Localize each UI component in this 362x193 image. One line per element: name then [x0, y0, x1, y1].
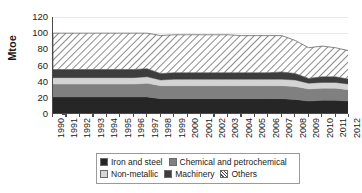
x-tick-mark: [187, 114, 188, 117]
legend-item[interactable]: Chemical and petrochemical: [169, 158, 287, 167]
legend-item[interactable]: Iron and steel: [100, 158, 163, 167]
y-tick-label: 0: [18, 109, 48, 119]
legend-swatch-icon: [169, 158, 177, 166]
x-tick-label: 2009: [312, 118, 321, 138]
x-tick-label: 2006: [272, 118, 281, 138]
x-tick-label: 2008: [299, 118, 308, 138]
x-axis-ticks: 1990199119921993199419951996199719981999…: [52, 114, 348, 154]
x-tick-label: 1992: [83, 118, 92, 138]
legend-item[interactable]: Others: [220, 170, 257, 179]
x-tick-label: 1993: [97, 118, 106, 138]
legend-item[interactable]: Machinery: [164, 170, 214, 179]
x-tick-mark: [133, 114, 134, 117]
y-tick-label: 100: [18, 28, 48, 38]
legend-label: Non-metallic: [111, 170, 158, 179]
x-tick-mark: [267, 114, 268, 117]
x-tick-label: 2001: [205, 118, 214, 138]
x-tick-mark: [294, 114, 295, 117]
y-tick-label: 20: [18, 93, 48, 103]
x-tick-mark: [227, 114, 228, 117]
x-tick-mark: [79, 114, 80, 117]
x-tick-label: 1991: [70, 118, 79, 138]
legend-label: Machinery: [175, 170, 214, 179]
x-tick-label: 2010: [326, 118, 335, 138]
y-tick-label: 80: [18, 44, 48, 54]
x-tick-mark: [321, 114, 322, 117]
legend-label: Others: [231, 170, 257, 179]
x-tick-mark: [119, 114, 120, 117]
x-tick-label: 2002: [218, 118, 227, 138]
x-tick-mark: [281, 114, 282, 117]
legend-swatch-icon: [100, 158, 108, 166]
x-tick-label: 2011: [339, 118, 348, 137]
legend-row: Non-metallicMachineryOthers: [100, 168, 296, 180]
x-tick-mark: [92, 114, 93, 117]
x-tick-label: 2012: [353, 118, 362, 138]
x-tick-label: 1997: [151, 118, 160, 138]
x-tick-label: 2005: [258, 118, 267, 138]
x-tick-mark: [146, 114, 147, 117]
y-tick-label: 120: [18, 12, 48, 22]
x-tick-mark: [213, 114, 214, 117]
legend-swatch-icon: [100, 170, 108, 178]
x-tick-label: 1994: [110, 118, 119, 138]
legend-label: Iron and steel: [111, 158, 163, 167]
x-tick-label: 2000: [191, 118, 200, 138]
x-tick-mark: [106, 114, 107, 117]
chart-legend: Iron and steelChemical and petrochemical…: [96, 153, 300, 184]
x-tick-mark: [52, 114, 53, 117]
stacked-area-series: [53, 17, 348, 114]
y-axis-ticks: 020406080100120: [14, 0, 48, 120]
legend-label: Chemical and petrochemical: [180, 158, 287, 167]
x-tick-label: 1999: [178, 118, 187, 138]
plot-area: [52, 17, 348, 114]
x-tick-mark: [173, 114, 174, 117]
x-tick-mark: [200, 114, 201, 117]
y-tick-label: 40: [18, 77, 48, 87]
x-tick-label: 1998: [164, 118, 173, 138]
legend-item[interactable]: Non-metallic: [100, 170, 158, 179]
x-tick-label: 1996: [137, 118, 146, 138]
x-tick-mark: [65, 114, 66, 117]
legend-row: Iron and steelChemical and petrochemical: [100, 156, 296, 168]
x-tick-mark: [240, 114, 241, 117]
x-tick-mark: [160, 114, 161, 117]
legend-swatch-icon: [164, 170, 172, 178]
y-tick-label: 60: [18, 61, 48, 71]
x-tick-mark: [348, 114, 349, 117]
legend-swatch-icon: [220, 170, 228, 178]
x-tick-mark: [308, 114, 309, 117]
x-tick-label: 1995: [124, 118, 133, 138]
x-tick-label: 2003: [231, 118, 240, 138]
x-tick-label: 1990: [57, 118, 66, 138]
x-tick-mark: [254, 114, 255, 117]
x-tick-label: 2007: [285, 118, 294, 138]
x-tick-label: 2004: [245, 118, 254, 138]
x-tick-mark: [335, 114, 336, 117]
